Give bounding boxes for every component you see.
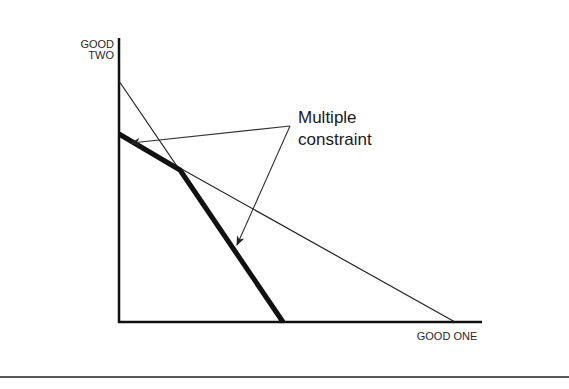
annotation-constraint: constraint [298,130,372,149]
x-axis-label: GOOD ONE [417,330,478,342]
binding-constraint-frontier [119,134,283,322]
y-axis-label-two: TWO [88,49,114,61]
annotation-multiple: Multiple [298,108,357,127]
multiple-constraint-diagram: GOOD TWO GOOD ONE Multiple constraint [0,0,569,389]
arrow-to-steep-segment [237,126,290,245]
